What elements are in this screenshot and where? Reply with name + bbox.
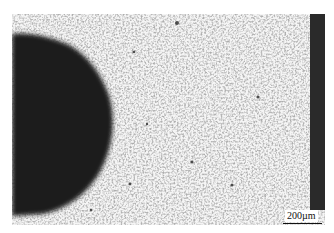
- dark-band: [310, 14, 325, 210]
- micrograph-image: [12, 14, 325, 225]
- scale-bar-line: [283, 223, 322, 224]
- micrograph-graphic: [12, 14, 325, 225]
- scale-bar-label: 200µm: [285, 210, 318, 222]
